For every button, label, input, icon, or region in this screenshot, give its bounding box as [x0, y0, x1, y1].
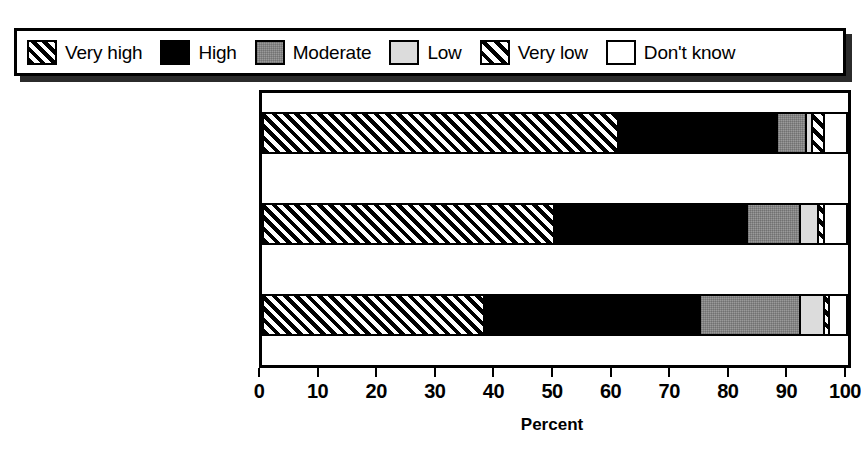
legend-item-label: Moderate	[293, 43, 372, 62]
bar-row	[262, 203, 848, 245]
legend-item-low[interactable]: Low	[389, 40, 461, 65]
x-tick-label: 40	[483, 380, 504, 403]
bar-segment	[748, 203, 801, 245]
x-tick-mark	[727, 368, 729, 377]
x-tick-label: 100	[829, 380, 861, 403]
bar-segment	[262, 203, 555, 245]
legend-item-label: Very high	[65, 43, 142, 62]
bar-segment	[825, 112, 848, 154]
legend-item-label: Low	[427, 43, 461, 62]
x-tick-mark	[258, 368, 260, 377]
x-tick-label: 50	[541, 380, 562, 403]
x-tick-label: 10	[307, 380, 328, 403]
x-tick-label: 60	[600, 380, 621, 403]
bar-segment	[619, 112, 777, 154]
x-tick-mark	[317, 368, 319, 377]
x-tick-mark	[375, 368, 377, 377]
high-swatch-icon	[160, 40, 190, 65]
stacked-bar-chart: Minimizing U.S. casualties Overthrowing …	[0, 90, 861, 450]
legend-item-very-low[interactable]: Very low	[480, 40, 588, 65]
bar-row	[262, 112, 848, 154]
veryhigh-swatch-icon	[27, 40, 57, 65]
legend-item-dont-know[interactable]: Don't know	[606, 40, 735, 65]
bar-segment	[813, 112, 825, 154]
moderate-swatch-icon	[255, 40, 285, 65]
legend-item-very-high[interactable]: Very high	[27, 40, 142, 65]
bar-row	[262, 294, 848, 336]
x-tick-label: 20	[366, 380, 387, 403]
x-tick-label: 90	[776, 380, 797, 403]
x-tick-mark	[551, 368, 553, 377]
x-tick-mark	[492, 368, 494, 377]
x-tick-label: 30	[424, 380, 445, 403]
bar-segment	[830, 294, 848, 336]
legend-item-label: Very low	[518, 43, 588, 62]
legend: Very high High Moderate Low Very low Don…	[14, 28, 846, 76]
legend-item-label: High	[198, 43, 236, 62]
legend-item-label: Don't know	[644, 43, 735, 62]
bar-segment	[825, 203, 848, 245]
bar-segment	[801, 203, 819, 245]
bar-segment	[778, 112, 807, 154]
x-tick-label: 70	[659, 380, 680, 403]
legend-item-moderate[interactable]: Moderate	[255, 40, 372, 65]
bar-segment	[555, 203, 748, 245]
x-tick-mark	[434, 368, 436, 377]
x-tick-label: 0	[254, 380, 265, 403]
x-axis-title: Percent	[259, 415, 845, 435]
bar-segment	[262, 294, 485, 336]
bar-segment	[262, 112, 619, 154]
x-tick-mark	[844, 368, 846, 377]
dontknow-swatch-icon	[606, 40, 636, 65]
low-swatch-icon	[389, 40, 419, 65]
plot-area	[259, 90, 851, 368]
x-tick-mark	[785, 368, 787, 377]
x-tick-mark	[610, 368, 612, 377]
bar-segment	[801, 294, 824, 336]
x-tick-mark	[668, 368, 670, 377]
verylow-swatch-icon	[480, 40, 510, 65]
x-tick-label: 80	[717, 380, 738, 403]
bar-segment	[485, 294, 702, 336]
bar-segment	[701, 294, 801, 336]
legend-item-high[interactable]: High	[160, 40, 236, 65]
